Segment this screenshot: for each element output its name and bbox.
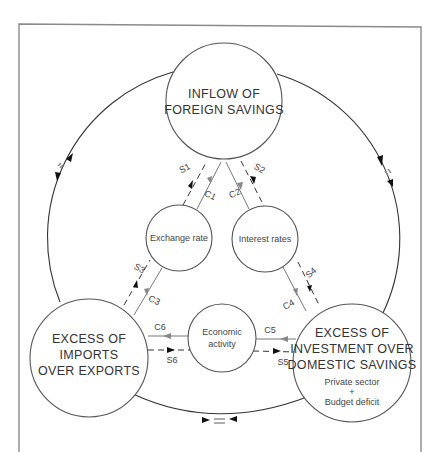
imports-line3: OVER EXPORTS <box>38 364 140 378</box>
outer-arc-bottom <box>133 394 307 414</box>
label-c3: C3 <box>147 293 162 307</box>
link-s2-c2: C2 S2 <box>226 161 267 209</box>
label-c2: C2 <box>227 186 242 200</box>
arrow-bottom-right-icon <box>202 417 210 423</box>
link-s3-c3: S3 C3 <box>124 260 162 315</box>
label-s4: S4 <box>304 265 319 280</box>
investment-sub3: Budget deficit <box>325 397 380 407</box>
label-c5: C5 <box>264 325 276 335</box>
node-interest-rates: Interest rates <box>232 206 298 272</box>
arrow-bottom-left-icon <box>229 416 237 422</box>
exchange-rate-label: Exchange rate <box>150 233 208 243</box>
arrow-right-down-icon <box>377 155 383 166</box>
node-economic-activity: Economic activity <box>188 304 256 372</box>
outer-arc-left <box>47 72 173 302</box>
arrow-right-up-icon <box>387 179 393 187</box>
investment-line1: EXCESS OF <box>315 326 389 340</box>
label-s2: S2 <box>252 161 267 175</box>
foreign-savings-line1: INFLOW OF <box>188 87 260 101</box>
imports-line1: EXCESS OF <box>52 332 126 346</box>
label-c6: C6 <box>154 322 166 332</box>
label-s3: S3 <box>132 261 147 275</box>
node-imports-exports: EXCESS OF IMPORTS OVER EXPORTS <box>30 299 148 417</box>
outer-arc-right <box>277 74 400 315</box>
node-foreign-savings: INFLOW OF FOREIGN SAVINGS <box>164 43 284 159</box>
foreign-savings-line2: FOREIGN SAVINGS <box>164 103 284 117</box>
economic-flow-diagram: S1 C1 C2 S2 S3 C3 C4 S4 C6 S6 <box>0 0 441 452</box>
node-investment-savings: EXCESS OF INVESTMENT OVER DOMESTIC SAVIN… <box>288 304 417 422</box>
investment-line2: INVESTMENT OVER <box>290 342 414 356</box>
label-c4: C4 <box>281 297 296 311</box>
investment-sub1: Private sector <box>324 377 379 387</box>
link-s4-c4: C4 S4 <box>281 262 319 312</box>
interest-rates-label: Interest rates <box>239 234 292 244</box>
investment-sub2: + <box>349 387 354 397</box>
link-s6-c6: C6 S6 <box>148 322 190 365</box>
economic-activity-line2: activity <box>208 339 236 349</box>
economic-activity-line1: Economic <box>202 327 242 337</box>
label-c1: C1 <box>203 188 218 202</box>
imports-line2: IMPORTS <box>60 348 119 362</box>
equals-bottom <box>214 419 225 423</box>
label-s1: S1 <box>177 161 191 175</box>
node-exchange-rate: Exchange rate <box>146 205 212 271</box>
investment-line3: DOMESTIC SAVINGS <box>288 358 417 372</box>
label-s6: S6 <box>166 355 177 365</box>
link-s1-c1: S1 C1 <box>177 161 221 209</box>
